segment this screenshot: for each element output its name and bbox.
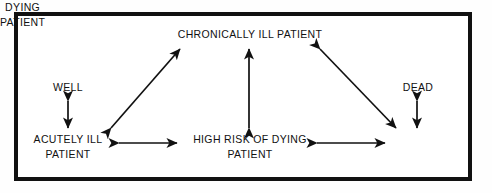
node-label-line1: HIGH RISK OF DYING bbox=[193, 133, 307, 145]
node-label-line1: WELL bbox=[53, 81, 83, 93]
node-dying-patient: DYING PATIENT bbox=[0, 0, 45, 30]
node-dead: DEAD bbox=[382, 80, 454, 95]
diagram-screenshot: CHRONICALLY ILL PATIENT WELL DEAD ACUTEL… bbox=[0, 0, 492, 193]
node-label-line1: DYING bbox=[5, 1, 40, 13]
node-label-line2: PATIENT bbox=[8, 147, 128, 162]
node-label-line1: ACUTELY ILL bbox=[34, 133, 103, 145]
node-label-line2: PATIENT bbox=[0, 15, 45, 30]
node-high-risk-of-dying-patient: HIGH RISK OF DYING PATIENT bbox=[178, 132, 322, 162]
node-label-line2: PATIENT bbox=[178, 147, 322, 162]
node-chronically-ill-patient: CHRONICALLY ILL PATIENT bbox=[120, 27, 380, 42]
node-label-line1: DEAD bbox=[403, 81, 434, 93]
node-acutely-ill-patient: ACUTELY ILL PATIENT bbox=[8, 132, 128, 162]
edge-acutely-ill-chronically-ill bbox=[111, 49, 180, 128]
node-well: WELL bbox=[28, 80, 108, 95]
node-label-line1: CHRONICALLY ILL PATIENT bbox=[178, 28, 323, 40]
